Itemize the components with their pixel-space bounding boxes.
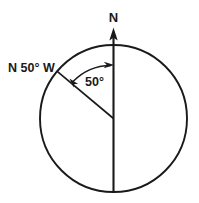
bearing-diagram-canvas: N N 50° W 50° bbox=[0, 0, 199, 203]
north-label: N bbox=[109, 10, 118, 25]
angle-label: 50° bbox=[85, 75, 104, 89]
bearing-diagram: N N 50° W 50° bbox=[0, 0, 199, 203]
bearing-label: N 50° W bbox=[8, 61, 55, 75]
